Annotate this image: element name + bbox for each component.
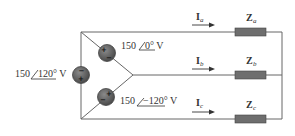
arrowhead-icon [209, 23, 215, 28]
label-source-bottom: 150 −120° V [120, 95, 178, 106]
label-source-left: 150 120° V [15, 68, 67, 79]
source-bottom: + − [98, 89, 115, 106]
impedance-b: Z b [235, 55, 266, 79]
minus-sign: − [79, 67, 85, 75]
impedance-box-icon [235, 115, 266, 123]
impedance-a: Z a [235, 12, 266, 36]
impedance-b-symbol: Z [246, 55, 253, 66]
impedance-a-symbol: Z [246, 12, 253, 23]
current-c: I c [192, 97, 215, 115]
arrowhead-icon [209, 110, 215, 115]
source-bottom-magnitude: 150 [120, 95, 135, 106]
current-b: I b [192, 55, 215, 72]
plus-sign: + [106, 90, 112, 98]
minus-sign: − [106, 54, 112, 62]
plus-sign: + [101, 46, 107, 54]
impedance-c-subscript: c [253, 104, 257, 112]
impedance-box-icon [235, 28, 266, 36]
source-top: + − [99, 45, 116, 63]
source-left-magnitude: 150 [15, 68, 30, 79]
current-a-subscript: a [200, 16, 204, 24]
circuit-diagram: + − − + + − 150 0° V 150 120° V 150 −120… [0, 0, 295, 136]
current-b-subscript: b [200, 60, 204, 68]
plus-sign: + [78, 75, 84, 83]
angle-symbol [31, 70, 38, 79]
impedance-c-symbol: Z [246, 99, 253, 110]
impedance-b-subscript: b [253, 60, 257, 68]
impedance-c: Z c [235, 99, 266, 123]
impedance-box-icon [235, 71, 266, 79]
source-left-angle: 120° V [38, 68, 67, 79]
current-c-subscript: c [200, 102, 204, 110]
source-bottom-angle: −120° V [143, 95, 178, 106]
minus-sign: − [100, 96, 106, 104]
arrowhead-icon [209, 67, 215, 72]
label-source-top: 150 0° V [121, 40, 164, 51]
current-a: I a [192, 11, 215, 28]
source-top-magnitude: 150 [121, 40, 136, 51]
impedance-a-subscript: a [253, 17, 257, 25]
source-top-angle: 0° V [145, 40, 164, 51]
source-left: − + [73, 67, 90, 84]
